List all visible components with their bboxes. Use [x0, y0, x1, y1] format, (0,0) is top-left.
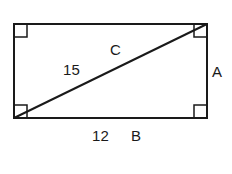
right-angle-marker-top-left	[14, 24, 27, 37]
hypotenuse-value-label: 15	[63, 62, 80, 77]
horizontal-side-value-label: 12	[92, 128, 109, 143]
geometry-diagram: C 15 A 12 B	[0, 0, 232, 174]
vertical-side-letter-label: A	[212, 64, 222, 79]
hypotenuse-letter-label: C	[110, 42, 121, 57]
horizontal-side-letter-label: B	[131, 128, 141, 143]
right-angle-marker-bottom-right	[194, 105, 207, 118]
diagonal-line	[14, 24, 207, 118]
rectangle-diagonal-drawing	[0, 0, 232, 174]
